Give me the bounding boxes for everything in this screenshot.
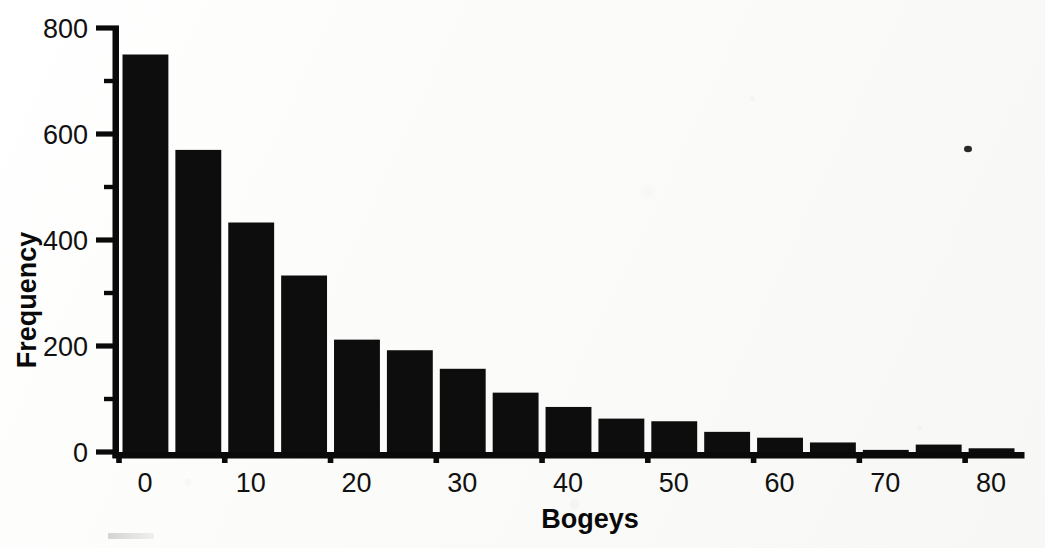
x-axis-major-tick <box>962 452 968 463</box>
histogram-bar <box>334 340 380 452</box>
y-axis-tick-label: 0 <box>73 438 88 468</box>
y-axis-major-tick <box>96 237 119 242</box>
scan-speck-icon <box>964 146 972 152</box>
histogram-bar <box>228 223 274 452</box>
histogram-figure: 0200400600800 01020304050607080 Frequenc… <box>0 0 1045 548</box>
y-axis-minor-tick <box>104 185 119 189</box>
x-axis-tick-label: 60 <box>765 468 795 498</box>
histogram-bar <box>175 150 221 452</box>
histogram-bar <box>704 432 750 452</box>
histogram-bar <box>546 407 592 452</box>
y-axis-minor-tick <box>104 291 119 295</box>
y-axis-tick-labels: 0200400600800 <box>43 14 88 468</box>
x-axis-major-tick <box>433 452 439 463</box>
histogram-bar <box>493 393 539 452</box>
x-axis-line <box>113 452 1025 459</box>
histogram-bar <box>281 276 327 452</box>
x-axis-tick-label: 20 <box>342 468 372 498</box>
x-axis-major-tick <box>539 452 545 463</box>
histogram-bar <box>969 448 1015 452</box>
x-axis-title: Bogeys <box>541 504 639 534</box>
histogram-bar <box>863 450 909 452</box>
y-axis-minor-tick <box>104 397 119 401</box>
x-axis-tick-label: 80 <box>976 468 1006 498</box>
histogram-bar <box>387 350 433 452</box>
histogram-bar <box>440 369 486 452</box>
x-axis-major-tick <box>328 452 334 463</box>
x-axis-tick-label: 70 <box>870 468 900 498</box>
y-axis-tick-label: 600 <box>43 120 88 150</box>
x-axis-major-tick <box>857 452 863 463</box>
x-axis-tick-label: 50 <box>659 468 689 498</box>
x-axis-major-tick <box>645 452 651 463</box>
y-axis-title: Frequency <box>12 232 42 369</box>
y-axis-major-tick <box>96 25 119 30</box>
y-axis-minor-tick <box>104 79 119 83</box>
x-axis-tick-label: 10 <box>236 468 266 498</box>
x-axis-major-tick <box>222 452 228 463</box>
y-axis-tick-label: 800 <box>43 14 88 44</box>
histogram-bar <box>598 419 644 452</box>
y-axis-major-tick <box>96 343 119 348</box>
histogram-bar <box>757 438 803 452</box>
histogram-bar <box>810 442 856 452</box>
x-axis-major-tick <box>751 452 757 463</box>
histogram-bar <box>123 55 169 453</box>
x-axis-tick-label: 40 <box>553 468 583 498</box>
x-axis-tick-label: 30 <box>447 468 477 498</box>
bars-group <box>123 55 1015 453</box>
y-axis-major-tick <box>96 449 119 454</box>
y-axis-major-tick <box>96 131 119 136</box>
histogram-bar <box>916 445 962 452</box>
histogram-bar <box>651 421 697 452</box>
histogram-plot: 0200400600800 01020304050607080 Frequenc… <box>0 0 1045 548</box>
x-axis-major-tick <box>116 452 122 463</box>
x-axis-tick-labels: 01020304050607080 <box>137 468 1006 498</box>
x-axis-tick-label: 0 <box>137 468 152 498</box>
y-axis-tick-label: 400 <box>43 226 88 256</box>
y-axis-tick-label: 200 <box>43 332 88 362</box>
